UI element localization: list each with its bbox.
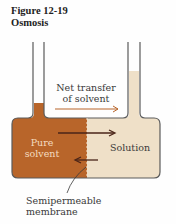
- membrane-label: Semipermeable membrane: [26, 195, 106, 217]
- solution-label: Solution: [104, 142, 156, 153]
- right-tube-fluid: [129, 71, 139, 120]
- left-tube-fluid: [34, 103, 44, 120]
- pure-solvent-label: Pure solvent: [16, 137, 68, 159]
- u-tube-diagram: [0, 0, 176, 224]
- net-transfer-label: Net transfer of solvent: [52, 82, 120, 104]
- osmosis-figure: Figure 12-19 Osmosis Net transfer of sol…: [0, 0, 176, 224]
